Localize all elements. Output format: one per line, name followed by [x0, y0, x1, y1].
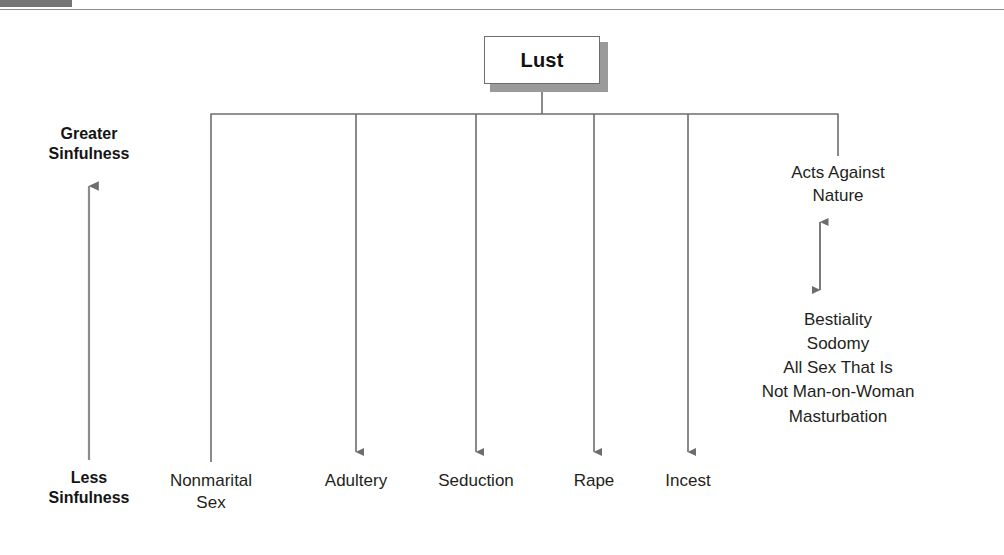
list-item-sodomy: Sodomy: [710, 332, 966, 356]
list-item-masturbation: Masturbation: [710, 405, 966, 429]
leaf-label-incest: Incest: [623, 470, 753, 492]
branch-head-acts-against-nature: Acts Against Nature: [728, 162, 948, 208]
root-node-lust: Lust: [484, 36, 600, 84]
leaf-label-nonmarital-sex: Nonmarital Sex: [141, 470, 281, 514]
root-node-label: Lust: [520, 49, 563, 72]
leaf-label-seduction: Seduction: [406, 470, 546, 492]
branch-list-acts-against-nature: Bestiality Sodomy All Sex That Is Not Ma…: [710, 308, 966, 429]
figure-root: Lust Greater Sinfulness Less Sinfulness …: [0, 0, 1004, 555]
axis-label-greater-sinfulness: Greater Sinfulness: [9, 124, 169, 165]
list-item-bestiality: Bestiality: [710, 308, 966, 332]
list-item-not-man-on-woman: Not Man-on-Woman: [710, 380, 966, 404]
list-item-all-sex-that-is: All Sex That Is: [710, 356, 966, 380]
leaf-label-adultery: Adultery: [286, 470, 426, 492]
